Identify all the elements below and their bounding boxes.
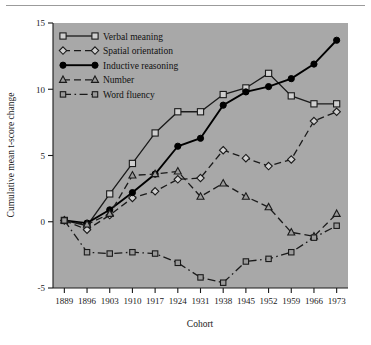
- data-point-marker: [265, 84, 271, 90]
- data-point-marker: [129, 190, 135, 196]
- legend-label: Verbal meaning: [103, 32, 163, 42]
- data-point-marker: [60, 62, 66, 68]
- y-tick-label: 0: [41, 217, 46, 227]
- data-point-marker: [107, 191, 113, 197]
- data-point-marker: [130, 250, 135, 255]
- x-tick-label: 1903: [101, 296, 120, 306]
- data-point-marker: [311, 235, 316, 240]
- data-point-marker: [334, 101, 340, 107]
- data-point-marker: [175, 260, 180, 265]
- legend-label: Number: [103, 75, 135, 85]
- x-tick-label: 1910: [123, 296, 142, 306]
- x-axis-title: Cohort: [187, 319, 214, 329]
- data-point-marker: [220, 91, 226, 97]
- data-point-marker: [92, 92, 97, 97]
- legend-label: Inductive reasoning: [103, 61, 178, 71]
- data-point-marker: [243, 259, 248, 264]
- y-axis-ticks: -5051015: [36, 18, 53, 293]
- data-point-marker: [266, 256, 271, 261]
- x-axis-ticks: 1889189619031910191719241931193819451952…: [55, 288, 346, 306]
- data-point-marker: [288, 76, 294, 82]
- x-tick-label: 1945: [237, 296, 256, 306]
- data-point-marker: [84, 250, 89, 255]
- data-point-marker: [334, 37, 340, 43]
- data-point-marker: [129, 160, 135, 166]
- data-point-marker: [220, 280, 225, 285]
- x-tick-label: 1938: [214, 296, 233, 306]
- y-tick-label: 10: [36, 85, 46, 95]
- data-point-marker: [175, 143, 181, 149]
- data-point-marker: [60, 33, 66, 39]
- legend-label: Word fluency: [103, 90, 155, 100]
- data-point-marker: [60, 92, 65, 97]
- x-tick-label: 1896: [78, 296, 97, 306]
- x-tick-label: 1931: [192, 296, 210, 306]
- data-point-marker: [152, 130, 158, 136]
- x-tick-label: 1889: [55, 296, 74, 306]
- x-tick-label: 1973: [328, 296, 347, 306]
- figure-container: -5051015 1889189619031910191719241931193…: [0, 0, 371, 345]
- data-point-marker: [197, 109, 203, 115]
- data-point-marker: [62, 218, 67, 223]
- data-point-marker: [243, 89, 249, 95]
- data-point-marker: [334, 223, 339, 228]
- data-point-marker: [107, 251, 112, 256]
- data-point-marker: [311, 101, 317, 107]
- data-point-marker: [92, 62, 98, 68]
- y-tick-label: 5: [41, 151, 46, 161]
- data-point-marker: [175, 109, 181, 115]
- data-point-marker: [289, 250, 294, 255]
- y-tick-label: 15: [36, 18, 46, 28]
- x-tick-label: 1959: [282, 296, 301, 306]
- cumulative-tscore-line-chart: -5051015 1889189619031910191719241931193…: [0, 0, 371, 345]
- data-point-marker: [311, 61, 317, 67]
- y-axis-title: Cumulative mean t-score change: [6, 93, 16, 218]
- y-tick-label: -5: [38, 283, 46, 293]
- data-point-marker: [220, 102, 226, 108]
- data-point-marker: [198, 275, 203, 280]
- data-point-marker: [197, 135, 203, 141]
- data-point-marker: [152, 251, 157, 256]
- data-point-marker: [92, 33, 98, 39]
- x-tick-label: 1952: [260, 296, 278, 306]
- data-point-marker: [265, 70, 271, 76]
- legend-label: Spatial orientation: [103, 46, 173, 56]
- x-tick-label: 1924: [169, 296, 188, 306]
- data-point-marker: [288, 93, 294, 99]
- x-tick-label: 1917: [146, 296, 165, 306]
- x-tick-label: 1966: [305, 296, 324, 306]
